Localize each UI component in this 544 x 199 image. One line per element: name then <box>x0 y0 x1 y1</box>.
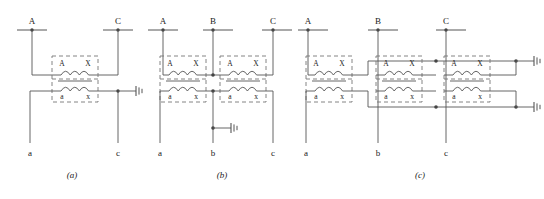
panel-a-primary-end-label: X <box>85 59 91 68</box>
panel-a-primary-start-label: A <box>59 59 65 68</box>
panel-c-terminal-a-label: a <box>304 148 308 158</box>
panel-c-t3-primary-end-label: X <box>477 59 483 68</box>
panel-b-t2-secondary-end-label: x <box>254 92 258 101</box>
panel-c-t2-primary-end-label: X <box>409 59 415 68</box>
panel-a-terminal-C-label: C <box>115 16 121 26</box>
panel-b-t1-primary-end-label: X <box>193 59 199 68</box>
panel-c-caption: (c) <box>415 170 425 180</box>
panel-a-terminal-a-label: a <box>28 148 32 158</box>
panel-a-terminal-A-label: A <box>29 16 36 26</box>
panel-c-terminal-B-label: B <box>375 16 381 26</box>
panel-c-t2-secondary-end-label: x <box>410 92 414 101</box>
panel-c-t3-primary-start-label: A <box>451 59 457 68</box>
panel-b-t2-primary-start-label: A <box>227 59 233 68</box>
figure-canvas: A C A X a x a c <box>0 0 544 199</box>
panel-c-t1-primary-start-label: A <box>313 59 319 68</box>
panel-b-junction-primary <box>211 73 215 77</box>
panel-a-secondary-end-label: x <box>86 92 90 101</box>
panel-b-terminal-a-label: a <box>158 148 162 158</box>
panel-c-terminal-C-label: C <box>443 16 449 26</box>
panel-b-terminal-B-label: B <box>210 16 216 26</box>
panel-c-t1-secondary-end-label: x <box>340 92 344 101</box>
panel-b-terminal-C-label: C <box>270 16 276 26</box>
panel-c-t3-secondary-end-label: x <box>478 92 482 101</box>
panel-b-terminal-b-label: b <box>211 148 216 158</box>
panel-b-terminal-A-label: A <box>160 16 167 26</box>
panel-c-terminal-b-label: b <box>376 148 381 158</box>
panel-b-terminal-c-label: c <box>271 148 275 158</box>
panel-c-terminal-c-label: c <box>444 148 448 158</box>
panel-c-terminal-A-label: A <box>305 16 312 26</box>
panel-b-t1-primary-start-label: A <box>167 59 173 68</box>
panel-b-caption: (b) <box>217 170 228 180</box>
panel-b-t1-secondary-end-label: x <box>194 92 198 101</box>
panel-a-terminal-c-label: c <box>116 148 120 158</box>
panel-b-t2-primary-end-label: X <box>253 59 259 68</box>
panel-c-t1-primary-end-label: X <box>339 59 345 68</box>
panel-a-caption: (a) <box>67 170 78 180</box>
figure-transformer-connections: A C A X a x a c <box>0 0 544 199</box>
panel-c-t2-primary-start-label: A <box>383 59 389 68</box>
